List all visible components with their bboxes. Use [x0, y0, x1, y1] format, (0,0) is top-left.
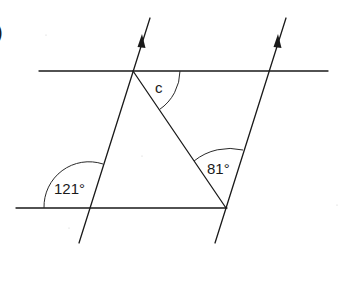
right-parallel-line [215, 18, 286, 243]
speck [336, 204, 337, 205]
angle-c-label: c [155, 79, 163, 96]
angle-81-label: 81° [207, 160, 230, 177]
speck [68, 227, 69, 228]
speck [45, 34, 46, 35]
geometry-diagram: ) c 81° 121° [0, 0, 350, 292]
angle-c-arc [160, 71, 181, 110]
transversal-line [133, 71, 226, 208]
speck [141, 155, 142, 156]
angle-121-label: 121° [54, 180, 85, 197]
left-parallel-line [79, 18, 150, 243]
part-marker: ) [0, 21, 3, 43]
